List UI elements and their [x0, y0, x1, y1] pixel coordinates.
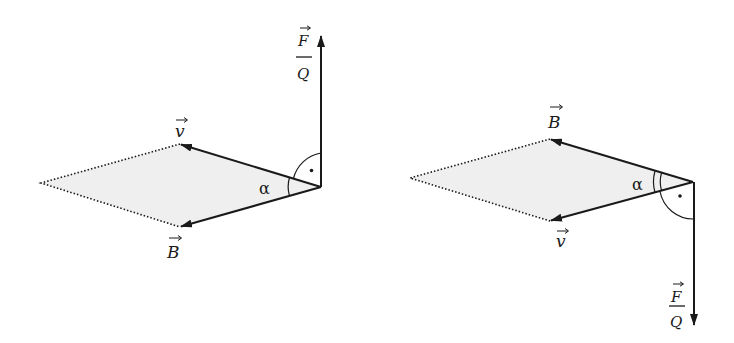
svg-text:B: B	[166, 242, 180, 262]
svg-text:F: F	[670, 288, 682, 306]
svg-text:Q: Q	[670, 313, 682, 331]
parallelogram-fill	[410, 139, 693, 221]
velocity-label: v	[175, 118, 188, 142]
magnetic-field-label: B	[547, 105, 563, 133]
right-angle-dot	[310, 169, 314, 173]
parallelogram-fill	[41, 144, 321, 227]
svg-text:F: F	[297, 32, 309, 50]
right-figure: α B v F Q	[410, 105, 694, 332]
angle-alpha-label: α	[632, 175, 643, 194]
svg-text:v: v	[175, 121, 185, 141]
velocity-label: v	[556, 229, 569, 252]
left-figure: α v B F Q	[41, 26, 321, 262]
magnetic-field-label: B	[166, 236, 182, 263]
right-angle-arc	[294, 153, 322, 179]
svg-text:v: v	[556, 231, 566, 251]
force-per-charge-label: F Q	[669, 282, 685, 331]
right-angle-dot	[678, 194, 682, 198]
svg-text:B: B	[547, 112, 561, 132]
lorentz-force-diagram: α v B F Q α B	[0, 0, 734, 343]
svg-text:Q: Q	[297, 65, 309, 83]
angle-alpha-label: α	[259, 179, 270, 198]
right-angle-arc	[660, 192, 694, 220]
force-per-charge-label: F Q	[296, 26, 312, 83]
